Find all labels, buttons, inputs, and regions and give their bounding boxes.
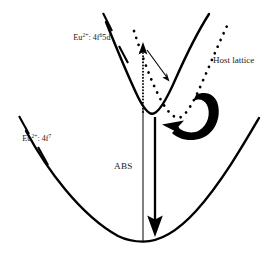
leader-line-ground-upper [19, 116, 29, 134]
label-ground-separator: : 4f [37, 134, 48, 143]
label-excited-prefix: Eu [73, 33, 82, 42]
diagram-canvas: Eu2+: 4f65d Eu2+: 4f7 Host lattice ABS [0, 0, 280, 255]
label-excited-separator: : 4f [88, 33, 99, 42]
label-excited-state: Eu2+: 4f65d [59, 32, 121, 42]
label-host-lattice: Host lattice [213, 55, 254, 65]
label-ground-exponent: 7 [49, 133, 52, 139]
label-absorption: ABS [114, 161, 133, 171]
configurational-coordinate-diagram: Eu2+: 4f65d Eu2+: 4f7 Host lattice ABS [0, 0, 280, 255]
label-ground-state: Eu2+: 4f7 [8, 131, 62, 143]
label-excited-suffix: 5d [102, 33, 110, 42]
relaxation-arrowhead-icon [162, 72, 169, 81]
label-ground-prefix: Eu [22, 134, 31, 143]
